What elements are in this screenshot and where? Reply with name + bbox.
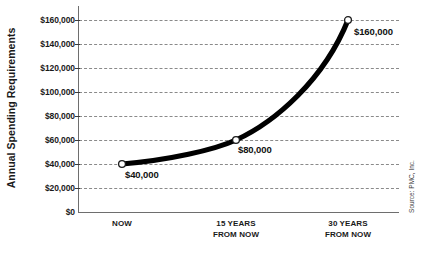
source-attribution-text: Source: PMC, Inc. [408, 160, 415, 213]
data-series-line [79, 14, 399, 212]
y-tick-label: $100,000 [40, 87, 75, 97]
y-tick-label: $20,000 [45, 183, 75, 193]
x-axis-category-now: NOW [112, 219, 132, 230]
y-axis-title-text: Annual Spending Requirements [5, 28, 17, 189]
x-axis-category-15-years: 15 YEARS FROM NOW [213, 219, 259, 240]
y-axis-tick-labels: $0 $20,000 $40,000 $60,000 $80,000 $100,… [22, 0, 78, 220]
x-axis-category-30-years: 30 YEARS FROM NOW [325, 219, 371, 240]
y-tick-label: $160,000 [40, 15, 75, 25]
x-axis-tick-labels: NOW 15 YEARS FROM NOW 30 YEARS FROM NOW [79, 216, 399, 250]
x-axis-line [78, 212, 399, 213]
data-point-marker [119, 161, 126, 168]
data-point-label: $160,000 [354, 26, 393, 37]
x-cat-line: 15 YEARS [213, 219, 259, 230]
y-tick-label: $60,000 [45, 135, 75, 145]
y-tick-label: $120,000 [40, 63, 75, 73]
source-attribution: Source: PMC, Inc. [404, 150, 418, 222]
y-tick-label: $40,000 [45, 159, 75, 169]
data-point-label: $80,000 [238, 144, 272, 155]
x-cat-line: NOW [112, 219, 132, 230]
y-axis-title: Annual Spending Requirements [0, 0, 22, 216]
x-cat-line: 30 YEARS [325, 219, 371, 230]
plot-area: $40,000 $80,000 $160,000 [79, 14, 399, 212]
data-point-marker [345, 17, 352, 24]
data-point-label: $40,000 [125, 169, 159, 180]
x-cat-line: FROM NOW [325, 230, 371, 241]
data-point-marker [233, 137, 240, 144]
x-cat-line: FROM NOW [213, 230, 259, 241]
y-tick-label: $80,000 [45, 111, 75, 121]
chart-container: Annual Spending Requirements $0 $20,000 … [0, 0, 428, 256]
y-tick-label: $0 [66, 207, 75, 217]
y-tick-label: $140,000 [40, 39, 75, 49]
